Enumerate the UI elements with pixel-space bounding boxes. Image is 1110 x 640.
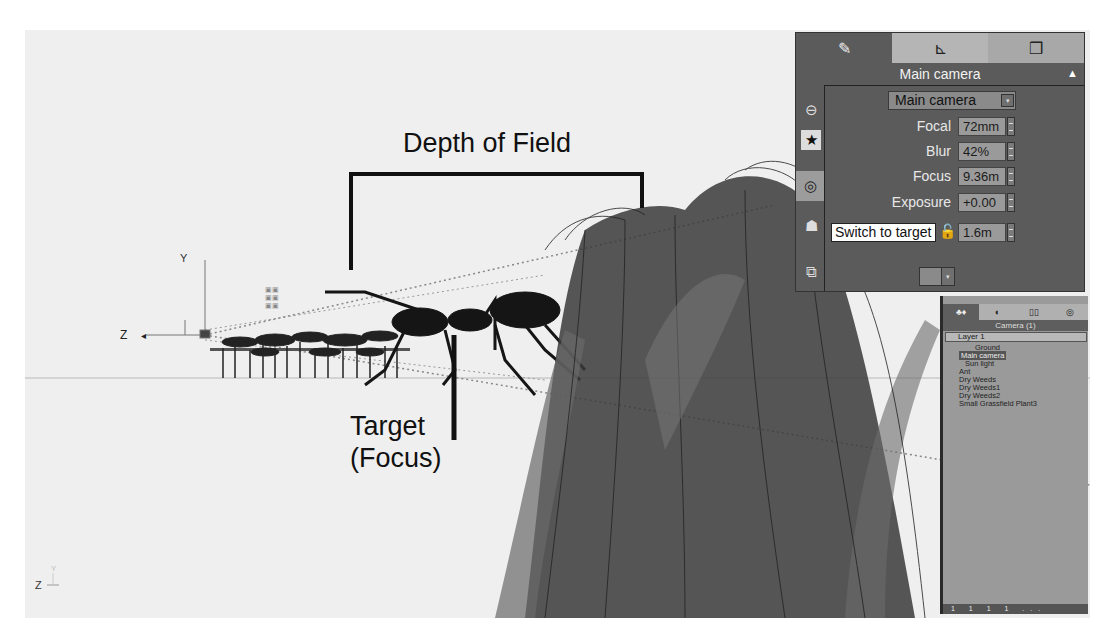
target-label-line2: (Focus) <box>350 442 442 474</box>
blur-spinner[interactable] <box>1007 142 1015 161</box>
explorer-header: Camera (1) <box>943 320 1088 331</box>
color-swatch-dropdown[interactable]: ▾ <box>919 267 955 286</box>
chevron-down-icon[interactable]: ▾ <box>941 268 954 285</box>
paint-brush-icon: ✎ <box>838 39 851 58</box>
render-icon[interactable]: ⧉ <box>798 257 824 287</box>
exposure-label: Exposure <box>892 191 951 213</box>
svg-text:▣▣: ▣▣ <box>265 294 279 301</box>
camera-select[interactable]: Main camera ▾ <box>888 91 1016 110</box>
tab-cameras[interactable]: ◎ <box>1052 304 1088 320</box>
target-focus-label: Target (Focus) <box>350 410 442 474</box>
svg-text:▣▣: ▣▣ <box>265 302 279 309</box>
target-distance-spinner[interactable] <box>1007 223 1015 242</box>
cubes-icon: ❒ <box>1029 39 1043 58</box>
blur-label: Blur <box>926 140 951 162</box>
prop-focal: Focal 72mm <box>796 115 1086 137</box>
focal-label: Focal <box>917 115 951 137</box>
object-list: Ground Main camera Sun light Ant Dry Wee… <box>945 344 1087 408</box>
focus-label: Focus <box>913 165 951 187</box>
camera-panel: ✎ ⊾ ❒ Main camera ▲ ⊖ ★ ◎ ☗ ⧉ Main camer… <box>795 32 1085 292</box>
depth-of-field-label: Depth of Field <box>403 128 571 159</box>
exposure-input[interactable]: +0.00 <box>958 193 1006 212</box>
prop-exposure: Exposure +0.00 <box>796 191 1086 213</box>
tab-objects[interactable]: ❒ <box>988 33 1084 63</box>
axis-gizmo <box>145 260 210 338</box>
target-label-line1: Target <box>350 410 442 442</box>
explorer-tabs: ♣♦ ◐ ▯▯ ◎ <box>943 304 1088 320</box>
gizmo-y-label: Y <box>180 252 187 264</box>
scene-explorer: ♣♦ ◐ ▯▯ ◎ Camera (1) Layer 1 Ground Main… <box>940 296 1088 614</box>
prop-focus: Focus 9.36m <box>796 165 1086 187</box>
prop-blur: Blur 42% <box>796 140 1086 162</box>
exposure-spinner[interactable] <box>1007 193 1015 212</box>
camera-panel-title: Main camera <box>796 63 1084 85</box>
camera-select-value: Main camera <box>895 92 976 108</box>
chevron-down-icon[interactable]: ▾ <box>1001 94 1014 107</box>
tab-scene[interactable]: ♣♦ <box>943 304 979 320</box>
switch-to-target-tooltip: Switch to target <box>831 223 936 242</box>
focus-spinner[interactable] <box>1007 167 1015 186</box>
blur-input[interactable]: 42% <box>958 142 1006 161</box>
corner-axis-y-label: Y <box>51 564 56 573</box>
corner-axis-z-label: Z <box>35 579 42 591</box>
tree-line <box>210 331 410 378</box>
explorer-footer-toolbar[interactable]: 1 1 1 1 ... <box>943 604 1088 614</box>
lock-icon[interactable]: 🔓 <box>939 223 956 239</box>
focal-spinner[interactable] <box>1007 117 1015 136</box>
focal-input[interactable]: 72mm <box>958 117 1006 136</box>
list-item[interactable]: Small Grassfield Plant3 <box>945 400 1087 408</box>
tab-layers[interactable]: ▯▯ <box>1016 304 1052 320</box>
tab-paint[interactable]: ✎ <box>796 33 892 63</box>
tab-materials[interactable]: ◐ <box>979 304 1015 320</box>
layer-selector[interactable]: Layer 1 <box>945 332 1087 342</box>
tab-measure[interactable]: ⊾ <box>892 33 988 63</box>
svg-text:▣▣: ▣▣ <box>265 286 279 293</box>
svg-text:◂: ◂ <box>141 330 146 341</box>
target-distance-input[interactable]: 1.6m <box>958 223 1006 242</box>
ruler-icon: ⊾ <box>934 39 947 58</box>
camera-panel-tabs: ✎ ⊾ ❒ <box>796 33 1084 63</box>
focus-input[interactable]: 9.36m <box>958 167 1006 186</box>
collapse-icon[interactable]: ▲ <box>1067 67 1078 79</box>
svg-text:Z: Z <box>120 328 127 342</box>
